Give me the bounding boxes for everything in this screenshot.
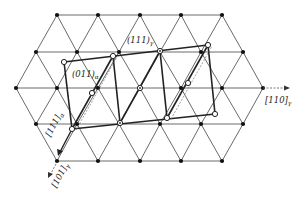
cell-right-edge — [208, 45, 215, 114]
cell-top-edge — [64, 45, 208, 62]
lattice-diagonal-line — [243, 52, 263, 88]
label-sub: α — [95, 73, 99, 80]
lattice-diagonal-line — [140, 88, 160, 124]
lattice-diagonal-line — [243, 88, 263, 124]
lattice-atom — [75, 50, 79, 54]
lattice-atom — [179, 159, 183, 163]
label-sub: γ — [288, 99, 292, 106]
lattice-diagonal-line — [140, 15, 160, 52]
lattice-atom — [14, 86, 18, 90]
lattice-diagonal-line — [201, 124, 222, 161]
lattice-diagonal-line — [16, 88, 36, 124]
lattice-diagonal-line — [98, 15, 119, 52]
lattice-diagonal-line — [181, 88, 201, 124]
lattice-atom — [158, 122, 162, 126]
lattice-atom — [55, 159, 59, 163]
coincident-atom-dot — [139, 87, 141, 89]
lattice-diagonal-line — [181, 124, 201, 161]
lattice-atom — [96, 159, 100, 163]
lattice-diagonal-line — [36, 15, 57, 52]
lattice-diagonal-line — [222, 124, 243, 161]
lattice-atom — [96, 13, 100, 17]
alpha-atom-open — [212, 111, 217, 116]
lattice-atom — [179, 13, 183, 17]
dashed-direction-line — [171, 46, 212, 119]
cell-left-edge — [64, 62, 72, 129]
label-text: (011) — [72, 69, 95, 79]
lattice-diagonal-line — [222, 88, 243, 124]
lattice-diagonal-line — [98, 88, 119, 124]
lattice-atom — [138, 13, 142, 17]
alpha-atom-open — [61, 59, 66, 64]
lattice-diagonal-line — [16, 52, 36, 88]
lattice-diagonal-line — [119, 15, 140, 52]
lattice-diagonal-line — [77, 15, 98, 52]
alpha-atom-open — [69, 126, 74, 131]
lattice-diagonal-line — [201, 15, 222, 52]
lattice-atom — [55, 86, 59, 90]
lattice-atom — [199, 122, 203, 126]
lattice-diagonal-line — [119, 124, 140, 161]
lattice-diagonal-line — [77, 124, 98, 161]
label-sub: γ — [150, 39, 154, 46]
lattice-atom — [241, 50, 245, 54]
cell-inner-edge — [160, 51, 167, 118]
lattice-diagonal-line — [160, 15, 181, 52]
lattice-atom — [55, 13, 59, 17]
lattice-diagonal-line — [57, 15, 77, 52]
alpha-atom-open — [89, 90, 94, 95]
lattice-atom — [241, 122, 245, 126]
lattice-diagonal-line — [201, 88, 222, 124]
alpha-atom-open — [205, 42, 210, 47]
lattice-diagonal-line — [36, 52, 57, 88]
lattice-diagram — [0, 0, 303, 198]
lattice-diagonal-line — [98, 124, 119, 161]
lattice-atom — [34, 50, 38, 54]
lattice-atom — [117, 50, 121, 54]
lattice-atom — [220, 159, 224, 163]
lattice-atom — [138, 159, 142, 163]
alpha-atom-open — [185, 80, 190, 85]
cell-bottom-edge — [72, 114, 215, 129]
arrow-head-icon — [284, 86, 290, 91]
label-text: [110] — [265, 95, 288, 105]
alpha-atom-open — [110, 53, 115, 58]
alpha-atom-open — [164, 115, 169, 120]
arrow-111-alpha — [60, 129, 72, 152]
lattice-diagonal-line — [222, 15, 243, 52]
lattice-diagonal-line — [160, 124, 181, 161]
label-direction-110-gamma: [110]γ — [265, 96, 291, 106]
lattice-atom — [34, 122, 38, 126]
label-text: (111) — [127, 35, 150, 45]
label-plane-011-alpha: (011)α — [72, 70, 99, 80]
lattice-atom — [220, 13, 224, 17]
coincident-atom-dot — [159, 50, 161, 52]
label-plane-111-gamma: (111)γ — [127, 36, 153, 46]
lattice-diagonal-line — [119, 52, 140, 88]
dashed-direction-line — [76, 57, 117, 130]
cell-inner-edge — [113, 56, 120, 123]
coincident-atom-dot — [119, 122, 121, 124]
lattice-diagonal-line — [222, 52, 243, 88]
lattice-atom — [220, 86, 224, 90]
lattice-diagonal-line — [140, 124, 160, 161]
